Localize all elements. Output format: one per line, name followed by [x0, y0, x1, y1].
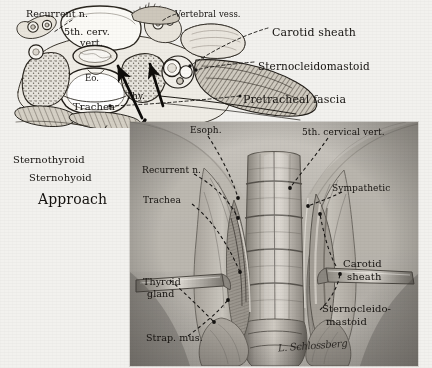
surgical-field-drawing	[130, 122, 418, 366]
label-esoph-lower: Esoph.	[190, 126, 222, 135]
label-thyroid-gland: Thyroid	[143, 277, 181, 287]
label-sternocleidomastoid-lower-line2: mastoid	[326, 317, 367, 327]
label-sternocleidomastoid-top: Sternocleidomastoid	[258, 61, 370, 72]
label-sternothyroid: Sternothyroid	[13, 155, 85, 165]
label-recurrent-n-top: Recurrent n.	[26, 9, 88, 19]
label-sympathetic: Sympathetic	[332, 184, 390, 193]
label-pretracheal-fascia: Pretracheal fascia	[243, 94, 346, 105]
label-fifth-cervical-vert-top-line2: vert.	[80, 38, 103, 48]
label-sternohyoid: Sternohyoid	[29, 173, 92, 183]
label-thyroid-top: Thy.	[126, 92, 145, 101]
label-carotid-sheath-top: Carotid sheath	[272, 27, 356, 38]
label-carotid-sheath-lower: Carotid	[343, 259, 382, 269]
label-thyroid-gland-line2: gland	[147, 289, 174, 299]
label-fifth-cervical-vert-top: 5th. cerv.	[64, 27, 110, 37]
label-vertebral-vess: Vertebral vess.	[175, 10, 241, 19]
label-recurrent-n-lower: Recurrent n.	[142, 166, 201, 175]
label-approach: Approach	[38, 192, 107, 207]
label-sternocleidomastoid-lower: Sternocleido-	[322, 304, 391, 314]
label-fifth-cervical-vert-lower: 5th. cervical vert.	[302, 128, 385, 137]
anatomy-plate: Recurrent n. 5th. cerv. vert. Vertebral …	[0, 0, 432, 368]
label-trachea-lower: Trachea	[143, 196, 181, 205]
label-carotid-sheath-lower-line2: sheath	[347, 272, 382, 282]
lower-surgical-exposure-panel	[130, 122, 418, 366]
label-trachea-top: Trachea	[73, 102, 115, 112]
label-strap-mus: Strap. mus.	[146, 333, 203, 343]
label-esophagus-top: Eo.	[85, 74, 99, 83]
